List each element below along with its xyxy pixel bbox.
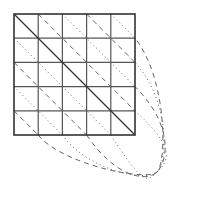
wrap-curve [87, 87, 166, 177]
wrap-curve [38, 38, 163, 175]
upper-diagonal [62, 14, 135, 87]
torus-grid-diagram [0, 0, 204, 208]
wrap-curve [62, 62, 164, 175]
lower-diagonal [14, 62, 87, 135]
main-diagonal [14, 14, 135, 135]
diagram [0, 0, 204, 208]
upper-diagonal [111, 14, 135, 38]
lower-diagonal [14, 111, 38, 135]
